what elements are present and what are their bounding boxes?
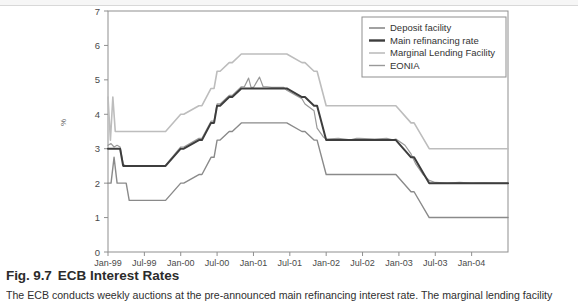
y-axis-tick-label: 1: [95, 212, 100, 223]
x-axis-tick-label: Jan-99: [94, 258, 122, 266]
ecb-interest-rates-chart: 01234567Jan-99Jul-99Jan-00Jul-00Jan-01Ju…: [0, 4, 578, 266]
y-axis-tick-label: 0: [95, 247, 100, 258]
series-line: [108, 77, 508, 183]
series-line: [108, 123, 508, 218]
caption-body-text: The ECB conducts weekly auctions at the …: [6, 289, 572, 301]
x-axis-tick-label: Jan-00: [167, 258, 195, 266]
y-axis-title: %: [59, 119, 68, 126]
x-axis-tick-label: Jan-02: [312, 258, 340, 266]
legend-item-label: Deposit facility: [390, 22, 451, 33]
legend-item-label: EONIA: [390, 60, 420, 71]
y-axis-tick-label: 4: [95, 109, 100, 120]
x-axis-tick-label: Jan-03: [385, 258, 413, 266]
y-axis-tick-label: 6: [95, 40, 100, 51]
caption-figure-title: ECB Interest Rates: [58, 268, 180, 283]
y-axis-tick-label: 3: [95, 143, 100, 154]
figure-caption: Fig. 9.7ECB Interest Rates The ECB condu…: [6, 268, 572, 301]
legend-item-label: Main refinancing rate: [390, 35, 479, 46]
caption-title-line: Fig. 9.7ECB Interest Rates: [6, 268, 572, 284]
x-axis-tick-label: Jul-99: [132, 258, 157, 266]
x-axis-tick-label: Jan-01: [240, 258, 268, 266]
x-axis-tick-label: Jul-02: [350, 258, 375, 266]
x-axis-tick-label: Jan-04: [458, 258, 486, 266]
y-axis-tick-label: 7: [95, 6, 100, 17]
figure-root: 01234567Jan-99Jul-99Jan-00Jul-00Jan-01Ju…: [0, 0, 578, 306]
chart-plot-area: 01234567Jan-99Jul-99Jan-00Jul-00Jan-01Ju…: [0, 4, 578, 266]
y-axis-tick-label: 2: [95, 178, 100, 189]
caption-figure-number: Fig. 9.7: [6, 268, 52, 283]
x-axis-tick-label: Jul-00: [205, 258, 230, 266]
y-axis-tick-label: 5: [95, 74, 100, 85]
x-axis-tick-label: Jul-01: [278, 258, 303, 266]
x-axis-tick-label: Jul-03: [423, 258, 448, 266]
series-line: [108, 88, 508, 183]
legend-item-label: Marginal Lending Facility: [390, 47, 495, 58]
